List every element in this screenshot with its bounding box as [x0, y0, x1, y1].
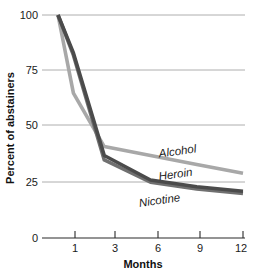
y-tick-50: 50 — [26, 119, 38, 131]
y-tick-0: 0 — [32, 232, 38, 244]
x-tick-1: 1 — [72, 242, 78, 254]
y-tick-25: 25 — [26, 176, 38, 188]
series-group — [58, 15, 243, 193]
x-tick-9: 9 — [197, 242, 203, 254]
y-tick-100: 100 — [20, 9, 38, 21]
series-label-heroin: Heroin — [158, 166, 193, 183]
y-axis-ticklabels: 100 75 50 25 0 — [20, 9, 38, 244]
x-tick-3: 3 — [112, 242, 118, 254]
series-label-alcohol: Alcohol — [157, 142, 197, 159]
gridlines — [42, 15, 245, 182]
chart-container: Alcohol Heroin Nicotine 100 75 50 25 0 1… — [0, 0, 257, 276]
y-axis-title: Percent of abstainers — [4, 72, 16, 184]
x-tick-6: 6 — [155, 242, 161, 254]
y-tick-75: 75 — [26, 64, 38, 76]
x-axis-title: Months — [123, 258, 162, 270]
line-chart: Alcohol Heroin Nicotine 100 75 50 25 0 1… — [0, 0, 257, 276]
x-axis-ticklabels: 1 3 6 9 12 — [72, 242, 247, 254]
x-tick-12: 12 — [235, 242, 247, 254]
series-label-nicotine: Nicotine — [138, 191, 181, 209]
x-axis-tickmarks — [75, 231, 243, 238]
